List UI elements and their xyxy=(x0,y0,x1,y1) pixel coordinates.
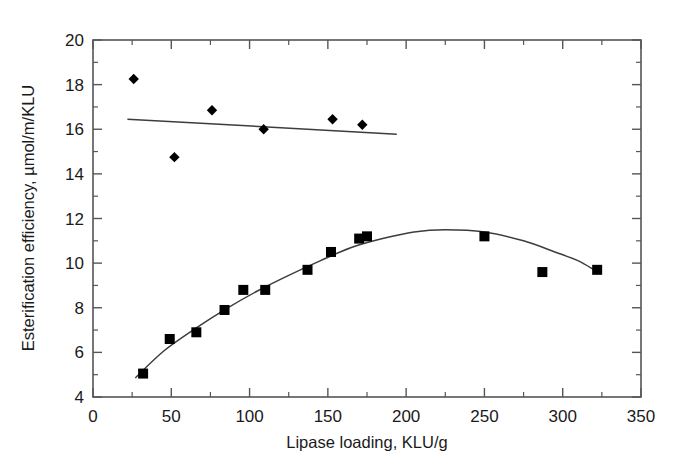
data-point-square xyxy=(592,265,602,275)
x-tick-label-0: 0 xyxy=(88,407,97,426)
y-tick-label-10: 10 xyxy=(65,254,84,273)
data-point-square xyxy=(191,327,201,337)
y-tick-label-4: 4 xyxy=(75,388,84,407)
y-tick-label-14: 14 xyxy=(65,165,84,184)
data-point-square xyxy=(165,334,175,344)
data-point-square xyxy=(537,267,547,277)
y-tick-label-20: 20 xyxy=(65,31,84,50)
x-tick-label-100: 100 xyxy=(235,407,263,426)
chart-figure: 050100150200250300350 468101214161820 Li… xyxy=(0,0,677,461)
y-tick-label-18: 18 xyxy=(65,76,84,95)
x-tick-label-300: 300 xyxy=(549,407,577,426)
scatter-plot: 050100150200250300350 468101214161820 Li… xyxy=(0,0,677,461)
data-point-square xyxy=(303,265,313,275)
x-axis-title: Lipase loading, KLU/g xyxy=(286,433,447,451)
x-tick-label-50: 50 xyxy=(162,407,181,426)
x-tick-label-350: 350 xyxy=(627,407,655,426)
x-tick-label-250: 250 xyxy=(470,407,498,426)
y-tick-label-6: 6 xyxy=(75,343,84,362)
data-point-square xyxy=(138,369,148,379)
x-tick-label-150: 150 xyxy=(314,407,342,426)
y-axis-title: Esterification efficiency, µmol/m/KLU xyxy=(19,85,37,352)
x-tick-label-200: 200 xyxy=(392,407,420,426)
data-point-square xyxy=(326,247,336,257)
data-point-square xyxy=(479,231,489,241)
data-point-square xyxy=(220,305,230,315)
data-point-square xyxy=(238,285,248,295)
y-tick-label-16: 16 xyxy=(65,120,84,139)
y-tick-label-12: 12 xyxy=(65,210,84,229)
data-point-square xyxy=(362,231,372,241)
figure-background xyxy=(0,0,677,461)
y-tick-label-8: 8 xyxy=(75,299,84,318)
data-point-square xyxy=(260,285,270,295)
